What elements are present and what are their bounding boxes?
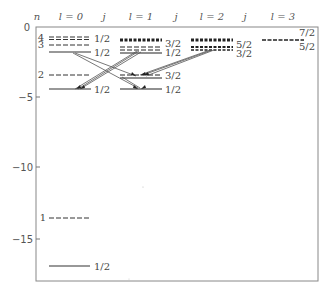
j-label-l0-b: 1/2 bbox=[94, 47, 110, 58]
n-label-2: 2 bbox=[38, 69, 44, 80]
n-label-1: 1 bbox=[40, 212, 46, 223]
column-header-j2: j bbox=[172, 11, 177, 22]
levels-l2 bbox=[191, 40, 233, 50]
tick-0: 0 bbox=[24, 22, 30, 33]
tick-minus5: −5 bbox=[18, 92, 33, 103]
stray-dot bbox=[128, 278, 129, 279]
column-header-l2: l = 2 bbox=[200, 11, 224, 22]
j-label-l0-d: 1/2 bbox=[94, 261, 110, 272]
stray-dot bbox=[142, 186, 143, 187]
j-label-l3-b: 5/2 bbox=[299, 41, 315, 52]
column-header-l1: l = 1 bbox=[129, 11, 153, 22]
levels-l0 bbox=[49, 37, 91, 266]
column-header-j3: j bbox=[241, 11, 246, 22]
tick-minus10: −10 bbox=[12, 162, 33, 173]
transition-l1-upper-to-lower bbox=[122, 77, 140, 88]
j-label-l0-c: 1/2 bbox=[94, 84, 110, 95]
n-header: n bbox=[34, 11, 40, 22]
column-header-l0: l = 0 bbox=[59, 11, 84, 22]
column-header-j1: j bbox=[100, 11, 105, 22]
j-label-l1-b: 1/2 bbox=[165, 47, 181, 58]
energy-level-diagram: n l = 0 j l = 1 j l = 2 j l = 3 0 −5 −10… bbox=[0, 0, 336, 296]
j-label-l0-a: 1/2 bbox=[94, 33, 110, 44]
tick-minus15: −15 bbox=[12, 234, 33, 245]
n-label-3: 3 bbox=[38, 39, 44, 50]
j-label-l1-d: 1/2 bbox=[165, 84, 181, 95]
j-label-l1-c: 3/2 bbox=[165, 70, 181, 81]
column-header-l3: l = 3 bbox=[271, 11, 295, 22]
plot-frame bbox=[36, 27, 318, 281]
j-label-l2-b: 3/2 bbox=[236, 48, 252, 59]
j-label-l3-a: 7/2 bbox=[299, 27, 315, 38]
